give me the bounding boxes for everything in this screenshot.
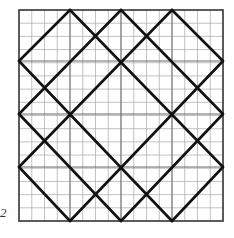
- diamond-lattice-figure: 2: [0, 0, 234, 238]
- lattice-diagram: [0, 0, 234, 238]
- figure-label: 2: [0, 205, 7, 221]
